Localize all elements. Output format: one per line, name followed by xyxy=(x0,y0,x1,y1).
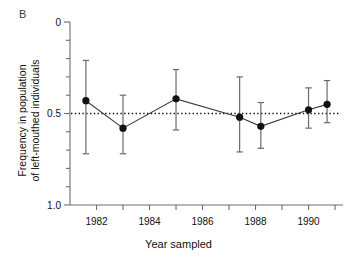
x-tick-label: 1984 xyxy=(138,216,161,227)
series-line xyxy=(86,99,327,128)
chart-canvas: 1.00.5019821984198619881990 xyxy=(0,0,357,267)
data-point-marker xyxy=(172,95,179,102)
data-point-marker xyxy=(119,125,126,132)
x-tick-label: 1986 xyxy=(191,216,214,227)
x-tick-label: 1988 xyxy=(244,216,267,227)
x-tick-label: 1990 xyxy=(297,216,320,227)
figure-panel-b: B Frequency in populationof left-mouthed… xyxy=(0,0,357,267)
y-tick-label: 1.0 xyxy=(47,200,61,211)
x-tick-label: 1982 xyxy=(85,216,108,227)
data-point-marker xyxy=(82,97,89,104)
data-point-marker xyxy=(305,106,312,113)
data-point-marker xyxy=(236,114,243,121)
y-tick-label: 0 xyxy=(55,17,61,28)
y-tick-label: 0.5 xyxy=(47,108,61,119)
data-point-marker xyxy=(323,101,330,108)
data-point-marker xyxy=(257,123,264,130)
